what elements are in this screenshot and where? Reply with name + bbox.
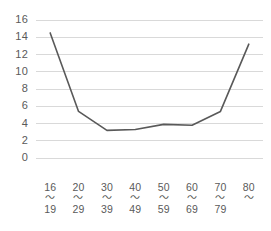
y-tick-label-6: 6: [2, 100, 28, 111]
y-tick-label-10: 10: [2, 66, 28, 77]
y-tick-label-14: 14: [2, 31, 28, 42]
x-tick-label-6: 70〜79: [204, 181, 236, 215]
x-tick-range-end: 69: [176, 203, 208, 215]
x-tick-range-separator: 〜: [119, 193, 151, 203]
data-series-line: [50, 33, 249, 130]
x-tick-range-separator: 〜: [63, 193, 95, 203]
x-tick-range-separator: 〜: [148, 193, 180, 203]
y-tick-label-0: 0: [2, 152, 28, 163]
x-tick-label-1: 20〜29: [63, 181, 95, 215]
x-tick-range-end: 49: [119, 203, 151, 215]
y-tick-label-16: 16: [2, 14, 28, 25]
x-tick-label-3: 40〜49: [119, 181, 151, 215]
y-tick-label-2: 2: [2, 135, 28, 146]
x-tick-range-end: 29: [63, 203, 95, 215]
y-tick-label-4: 4: [2, 118, 28, 129]
x-tick-label-4: 50〜59: [148, 181, 180, 215]
x-tick-range-end: 19: [34, 203, 66, 215]
x-tick-label-0: 16〜19: [34, 181, 66, 215]
x-tick-label-7: 80〜: [233, 181, 265, 203]
line-chart: 0246810121416 16〜1920〜2930〜3940〜4950〜596…: [0, 0, 271, 231]
x-tick-range-separator: 〜: [91, 193, 123, 203]
x-tick-range-end: 59: [148, 203, 180, 215]
x-tick-range-end: 79: [204, 203, 236, 215]
y-tick-label-8: 8: [2, 83, 28, 94]
x-tick-range-end: 39: [91, 203, 123, 215]
x-tick-label-2: 30〜39: [91, 181, 123, 215]
x-tick-range-separator: 〜: [233, 193, 265, 203]
x-tick-range-separator: 〜: [176, 193, 208, 203]
x-tick-label-5: 60〜69: [176, 181, 208, 215]
y-tick-label-12: 12: [2, 49, 28, 60]
x-tick-range-separator: 〜: [34, 193, 66, 203]
x-tick-range-separator: 〜: [204, 193, 236, 203]
